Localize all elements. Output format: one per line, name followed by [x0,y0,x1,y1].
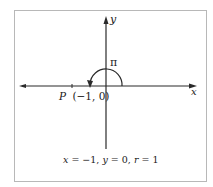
point-label: P (−1, 0) [58,90,109,102]
y-axis-label: y [109,13,117,26]
x-axis-arrow-left-icon [19,84,26,88]
unit-circle-diagram: y x π P (−1, 0) x = −1, y = 0, r = 1 [0,0,213,187]
x-axis-label: x [191,86,197,97]
y-axis-arrow-up-icon [104,16,109,24]
x-axis [19,84,197,89]
y-axis [104,16,109,149]
arc-arrow-icon [87,80,93,88]
point-name: P [58,90,67,102]
angle-label: π [110,56,117,69]
point-coords: (−1, 0) [72,90,109,102]
angle-arc [87,69,122,88]
caption: x = −1, y = 0, r = 1 [63,154,158,165]
